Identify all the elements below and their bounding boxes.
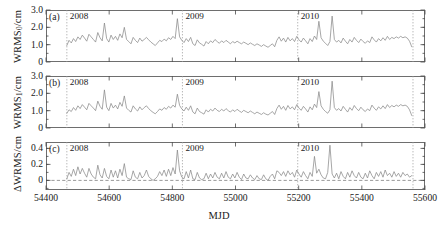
x-tick-label: 54600 (84, 192, 134, 203)
year-label-2010-panel-a: 2010 (301, 11, 319, 21)
y-tick-label-panel-b: 1.0 (13, 105, 43, 116)
x-tick-label: 54400 (21, 192, 71, 203)
year-label-2008-panel-a: 2008 (70, 11, 88, 21)
y-tick-label-panel-b: 0 (13, 122, 43, 133)
panel-a: (a) (46, 10, 425, 62)
y-tick-label-panel-c: 0 (13, 174, 43, 185)
year-label-2009-panel-a: 2009 (185, 11, 203, 21)
year-label-2009-panel-b: 2009 (185, 77, 203, 87)
x-tick-label: 55600 (400, 192, 438, 203)
y-tick-label-panel-b: 3.0 (13, 70, 43, 81)
y-tick-label-panel-a: 0 (13, 56, 43, 67)
year-label-2009-panel-c: 2009 (185, 143, 203, 153)
panel-c: (c) (46, 142, 425, 190)
y-tick-label-panel-c: 0.4 (13, 142, 43, 153)
y-tick-label-panel-a: 1.0 (13, 39, 43, 50)
year-label-2010-panel-c: 2010 (301, 143, 319, 153)
year-label-2008-panel-b: 2008 (70, 77, 88, 87)
panel-c-plot (46, 142, 425, 190)
data-series-a (67, 16, 412, 47)
x-tick-label: 55200 (274, 192, 324, 203)
data-series-c (67, 145, 412, 180)
y-tick-label-panel-b: 2.0 (13, 87, 43, 98)
x-axis-label: MJD (0, 210, 438, 221)
y-tick-label-panel-a: 2.0 (13, 21, 43, 32)
panel-b-plot (46, 76, 425, 128)
x-tick-label: 55000 (211, 192, 261, 203)
figure-root: (a) (b) (c) WRMS0/cm WRMS1/cm ΔWRMS/cm M… (0, 0, 438, 228)
x-tick-label: 54800 (147, 192, 197, 203)
panel-b: (b) (46, 76, 425, 128)
year-label-2008-panel-c: 2008 (70, 143, 88, 153)
panel-b-tag: (b) (49, 77, 60, 88)
y-tick-label-panel-a: 3.0 (13, 4, 43, 15)
panel-a-tag: (a) (49, 11, 60, 22)
y-tick-label-panel-c: 0.2 (13, 158, 43, 169)
year-label-2010-panel-b: 2010 (301, 77, 319, 87)
panel-c-tag: (c) (49, 143, 60, 154)
x-tick-label: 55400 (337, 192, 387, 203)
data-series-b (67, 81, 412, 115)
panel-a-plot (46, 10, 425, 62)
